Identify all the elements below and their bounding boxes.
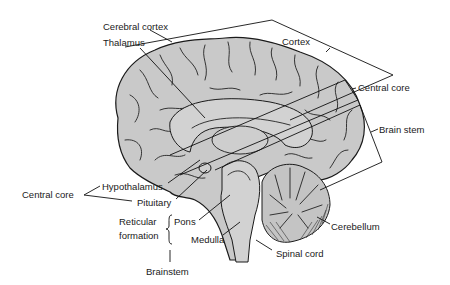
label-pons: Pons <box>174 216 196 227</box>
label-pituitary: Pituitary <box>137 197 172 208</box>
label-cortex: Cortex <box>282 36 310 47</box>
reticular-brace <box>166 215 172 244</box>
label-central-core-right: Central core <box>358 82 410 93</box>
hypothalamus-leader-a <box>84 186 100 195</box>
brain-diagram: Cerebral cortex Thalamus Cortex Central … <box>0 0 450 285</box>
label-brain-stem: Brain stem <box>379 124 424 135</box>
label-spinal-cord: Spinal cord <box>276 248 324 259</box>
label-thalamus: Thalamus <box>103 37 145 48</box>
label-reticular: Reticular <box>119 216 157 227</box>
central-core-leader <box>352 88 356 89</box>
diagram-canvas: Cerebral cortex Thalamus Cortex Central … <box>0 0 450 285</box>
label-central-core-left: Central core <box>22 189 74 200</box>
label-brainstem: Brainstem <box>146 266 189 277</box>
pituitary-leader-a <box>84 195 132 201</box>
brain-stem-leader <box>371 129 378 132</box>
label-cerebellum: Cerebellum <box>331 221 380 232</box>
cortex-leader <box>326 48 330 52</box>
spinal-cord-leader <box>256 240 272 250</box>
label-medulla: Medulla <box>191 234 225 245</box>
label-cerebral-cortex: Cerebral cortex <box>103 21 168 32</box>
label-formation: formation <box>119 230 159 241</box>
label-hypothalamus: Hypothalamus <box>102 181 163 192</box>
